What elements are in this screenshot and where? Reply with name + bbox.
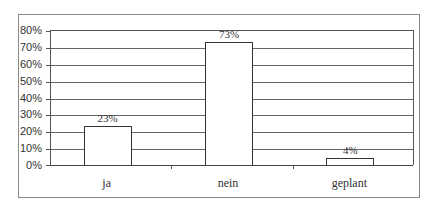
y-tick-label: 50% [0, 75, 42, 87]
x-tick-label: geplant [309, 176, 389, 191]
bar-value-label: 23% [78, 112, 138, 124]
bar-value-label: 4% [320, 144, 380, 156]
y-tick [46, 132, 51, 133]
y-tick [46, 48, 51, 49]
x-tick-label: nein [188, 176, 268, 191]
y-tick-label: 10% [0, 142, 42, 154]
y-tick-label: 70% [0, 41, 42, 53]
bar-nein [205, 42, 253, 165]
y-tick-label: 0% [0, 159, 42, 171]
y-tick [46, 149, 51, 150]
bar-value-label: 73% [199, 28, 259, 40]
y-tick-label: 20% [0, 125, 42, 137]
x-tick-label: ja [67, 176, 147, 191]
plot-area: 23%73%4% [50, 30, 414, 165]
y-tick [46, 115, 51, 116]
y-tick-label: 30% [0, 108, 42, 120]
y-tick [46, 165, 51, 166]
x-tick [293, 165, 294, 169]
x-tick [171, 165, 172, 169]
y-tick-label: 80% [0, 24, 42, 36]
bar-ja [84, 126, 132, 165]
y-tick [46, 65, 51, 66]
y-tick [46, 99, 51, 100]
y-tick [46, 31, 51, 32]
x-axis-line [51, 165, 413, 166]
y-tick-label: 60% [0, 58, 42, 70]
y-tick-label: 40% [0, 92, 42, 104]
bar-geplant [326, 158, 374, 165]
y-tick [46, 82, 51, 83]
